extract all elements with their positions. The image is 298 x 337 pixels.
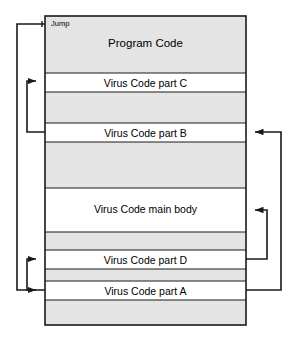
program-box bbox=[45, 16, 246, 325]
flow-part-d-to-main-body bbox=[246, 210, 267, 259]
flow-part-d-to-main-body-path bbox=[246, 210, 267, 259]
flow-part-a-to-part-b-path bbox=[246, 132, 281, 290]
flow-jump-to-part-a bbox=[17, 21, 45, 290]
band-gap-1 bbox=[45, 92, 246, 123]
band-program-code bbox=[45, 16, 246, 73]
band-virus-code-main-body bbox=[45, 188, 246, 232]
band-gap-4 bbox=[45, 269, 246, 281]
band-virus-code-part-d bbox=[45, 250, 246, 269]
band-gap-5 bbox=[45, 300, 246, 325]
band-gap-2 bbox=[45, 142, 246, 188]
flow-part-a-to-part-b bbox=[246, 132, 281, 290]
flow-part-b-to-part-c-path bbox=[27, 81, 45, 132]
jump-label: Jump bbox=[51, 20, 69, 28]
flow-part-b-to-part-c bbox=[27, 81, 45, 132]
band-virus-code-part-a bbox=[45, 281, 246, 300]
band-virus-code-part-b bbox=[45, 123, 246, 142]
band-gap-3 bbox=[45, 232, 246, 250]
diagram-canvas: Jump Program Code Virus Code part C Viru… bbox=[0, 0, 298, 337]
flow-part-a-to-part-d-path bbox=[27, 259, 45, 290]
flow-part-a-to-part-d bbox=[27, 259, 45, 290]
band-virus-code-part-c bbox=[45, 73, 246, 92]
virus-fragmentation-diagram bbox=[0, 0, 298, 337]
flow-jump-to-part-a-path bbox=[17, 24, 45, 290]
